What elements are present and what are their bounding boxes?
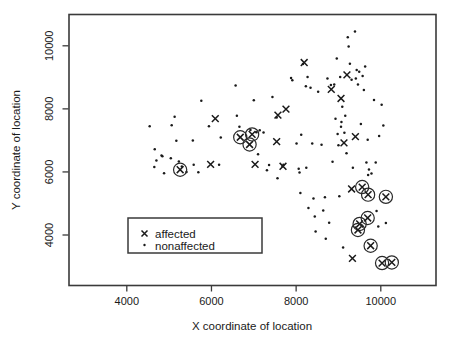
data-point-nonaffected	[324, 196, 327, 199]
x-tick-label: 4000	[115, 295, 139, 307]
data-point-nonaffected	[341, 105, 344, 108]
data-point-nonaffected	[345, 152, 348, 155]
data-point-nonaffected	[309, 86, 312, 89]
data-point-nonaffected	[268, 164, 271, 167]
data-point-nonaffected	[305, 85, 308, 88]
data-point-nonaffected	[197, 171, 200, 174]
data-point-nonaffected	[258, 129, 261, 132]
data-point-nonaffected	[306, 76, 309, 79]
data-point-nonaffected	[330, 84, 333, 87]
y-tick-label: 6000	[43, 160, 55, 184]
legend-label-affected: affected	[155, 228, 196, 240]
y-tick-label: 4000	[43, 223, 55, 247]
data-point-nonaffected	[374, 161, 377, 164]
data-point-nonaffected	[336, 57, 339, 60]
x-tick-label: 8000	[284, 295, 308, 307]
data-point-nonaffected	[349, 63, 352, 66]
data-point-nonaffected	[307, 207, 310, 210]
x-tick-label: 10000	[366, 295, 397, 307]
data-point-nonaffected	[155, 159, 158, 162]
data-point-nonaffected	[257, 153, 260, 156]
data-point-nonaffected	[298, 171, 301, 174]
data-point-nonaffected	[148, 125, 151, 128]
data-point-nonaffected	[238, 126, 241, 129]
legend: affected nonaffected	[128, 218, 262, 253]
data-point-nonaffected	[192, 139, 195, 142]
data-point-nonaffected	[218, 163, 221, 166]
data-point-nonaffected	[200, 99, 203, 102]
data-point-nonaffected	[373, 99, 376, 102]
data-point-nonaffected	[352, 167, 355, 170]
data-point-nonaffected	[236, 115, 239, 118]
data-point-nonaffected	[347, 45, 350, 48]
data-point-nonaffected	[360, 123, 363, 126]
data-point-nonaffected	[333, 83, 336, 86]
data-point-nonaffected	[322, 209, 325, 212]
data-point-nonaffected	[380, 104, 383, 107]
data-point-nonaffected	[262, 131, 265, 134]
data-point-nonaffected	[170, 157, 173, 160]
data-point-nonaffected	[338, 195, 341, 198]
data-point-nonaffected	[375, 210, 378, 213]
data-point-nonaffected	[364, 65, 367, 68]
data-point-nonaffected	[368, 168, 371, 171]
data-point-nonaffected	[367, 174, 370, 177]
data-point-nonaffected	[354, 30, 357, 33]
data-point-nonaffected	[153, 148, 156, 151]
data-point-nonaffected	[355, 69, 358, 72]
data-point-nonaffected	[305, 167, 308, 170]
data-point-nonaffected	[276, 177, 279, 180]
data-point-nonaffected	[343, 132, 346, 135]
data-point-nonaffected	[295, 142, 298, 145]
data-point-nonaffected	[385, 222, 388, 225]
data-point-nonaffected	[339, 76, 342, 79]
data-point-nonaffected	[163, 172, 166, 175]
data-point-nonaffected	[192, 163, 195, 166]
data-point-nonaffected	[297, 168, 300, 171]
data-point-nonaffected	[314, 230, 317, 233]
data-point-nonaffected	[340, 126, 343, 129]
x-axis-title: X coordinate of location	[192, 320, 312, 332]
data-point-nonaffected	[344, 115, 347, 118]
data-point-nonaffected	[220, 136, 223, 139]
data-point-nonaffected	[300, 133, 303, 136]
data-point-nonaffected	[317, 91, 320, 94]
legend-label-nonaffected: nonaffected	[155, 240, 215, 252]
y-axis-title: Y coordinate of location	[10, 90, 22, 210]
data-point-nonaffected	[325, 238, 328, 241]
data-point-nonaffected	[170, 124, 173, 127]
data-point-nonaffected	[320, 144, 323, 147]
legend-dot-icon	[143, 244, 145, 246]
data-point-nonaffected	[336, 133, 339, 136]
data-point-nonaffected	[334, 117, 337, 120]
data-point-nonaffected	[355, 77, 358, 80]
data-point-nonaffected	[347, 36, 350, 39]
data-point-nonaffected	[328, 221, 331, 224]
data-point-nonaffected	[342, 246, 345, 249]
data-point-nonaffected	[363, 89, 366, 92]
data-point-nonaffected	[175, 139, 178, 142]
scatter-plot-figure: 40006000800010000 40006000800010000 X co…	[0, 0, 460, 353]
data-point-nonaffected	[161, 155, 164, 158]
data-point-nonaffected	[378, 135, 381, 138]
data-point-nonaffected	[366, 139, 369, 142]
data-point-nonaffected	[331, 161, 334, 164]
data-point-nonaffected	[173, 116, 176, 119]
data-point-nonaffected	[370, 172, 373, 175]
data-point-nonaffected	[365, 161, 368, 164]
data-point-nonaffected	[266, 169, 269, 172]
data-point-nonaffected	[382, 124, 385, 127]
data-point-nonaffected	[314, 215, 317, 218]
data-point-nonaffected	[357, 83, 360, 86]
data-point-nonaffected	[326, 77, 329, 80]
data-point-nonaffected	[291, 79, 294, 82]
data-point-nonaffected	[271, 96, 274, 99]
data-point-nonaffected	[234, 84, 237, 87]
y-tick-label: 10000	[43, 31, 55, 62]
data-point-nonaffected	[299, 192, 302, 195]
y-tick-label: 8000	[43, 97, 55, 121]
data-point-nonaffected	[253, 99, 256, 102]
data-point-nonaffected	[153, 166, 156, 169]
plot-svg: 40006000800010000 40006000800010000 X co…	[0, 0, 460, 353]
data-point-nonaffected	[361, 75, 364, 78]
